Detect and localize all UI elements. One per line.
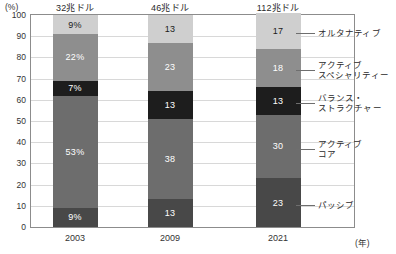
- legend-item-label: アクティブ: [318, 60, 389, 70]
- column-header: 46兆ドル: [130, 1, 210, 14]
- legend-item-label: パッシブ: [318, 200, 354, 210]
- bar-segment-value: 13: [165, 24, 176, 34]
- bar-segment[interactable]: 23: [256, 178, 301, 227]
- legend-item-label: オルタナティブ: [318, 28, 381, 38]
- y-axis-tick-label: 70: [0, 75, 26, 83]
- bar-segment-value: 13: [165, 100, 176, 110]
- bar-segment-value: 17: [273, 26, 284, 36]
- y-axis-tick-label: 20: [0, 181, 26, 189]
- bar-segment[interactable]: 17: [256, 13, 301, 49]
- stacked-bar[interactable]: 2330131817: [256, 15, 301, 227]
- legend-item-label: バランス・: [318, 93, 382, 103]
- bar-segment[interactable]: 13: [256, 87, 301, 115]
- bar-segment[interactable]: 9%: [53, 15, 98, 34]
- bar-segment[interactable]: 38: [148, 119, 193, 200]
- legend-item-label-line2: ストラクチャー: [318, 103, 382, 113]
- bar-segment-value: 30: [273, 141, 284, 151]
- bar-segment-value: 9%: [68, 20, 82, 30]
- y-axis-tick-label: 60: [0, 96, 26, 104]
- legend-item[interactable]: アクティブコア: [318, 139, 363, 159]
- bar-segment[interactable]: 23: [148, 43, 193, 92]
- x-axis-tick-label: 2009: [140, 233, 200, 243]
- legend-leader-line: [296, 103, 316, 104]
- bar-segment-value: 23: [273, 198, 284, 208]
- legend-item-label: アクティブ: [318, 139, 363, 149]
- bar-segment-value: 9%: [68, 212, 82, 222]
- bar-segment-value: 18: [273, 63, 284, 73]
- bar-segment-value: 23: [165, 62, 176, 72]
- legend-item-label-line2: コア: [318, 149, 363, 159]
- legend-item-label-line2: スペシャリティー: [318, 70, 389, 80]
- y-axis-tick-label: 0: [0, 223, 26, 231]
- bar-segment[interactable]: 13: [148, 15, 193, 43]
- column-header: 32兆ドル: [35, 1, 115, 14]
- chart-container: (%) (年) 32兆ドル46兆ドル112兆ドル 100908070605040…: [0, 0, 396, 254]
- legend-item[interactable]: パッシブ: [318, 200, 354, 210]
- stacked-bar[interactable]: 9%53%7%22%9%: [53, 15, 98, 227]
- bar-segment[interactable]: 53%: [53, 96, 98, 208]
- y-axis-tick-label: 10: [0, 202, 26, 210]
- stacked-bar[interactable]: 1338132313: [148, 15, 193, 227]
- legend-item[interactable]: アクティブスペシャリティー: [318, 60, 389, 80]
- bar-segment[interactable]: 9%: [53, 208, 98, 227]
- bar-segment-value: 53%: [66, 147, 85, 157]
- legend-leader-line: [296, 33, 316, 34]
- x-axis-unit-label: (年): [355, 236, 370, 248]
- bar-segment[interactable]: 30: [256, 115, 301, 179]
- bar-segment[interactable]: 22%: [53, 34, 98, 81]
- legend-leader-line: [296, 70, 316, 71]
- legend-leader-line: [296, 149, 316, 150]
- bar-segment-value: 22%: [66, 52, 85, 62]
- legend-leader-line: [296, 205, 316, 206]
- bar-segment-value: 7%: [68, 83, 82, 93]
- x-axis-tick-label: 2021: [248, 233, 308, 243]
- bar-segment[interactable]: 13: [148, 91, 193, 119]
- y-axis-tick-label: 90: [0, 32, 26, 40]
- bar-segment-value: 13: [165, 208, 176, 218]
- bar-segment[interactable]: 18: [256, 49, 301, 87]
- y-axis-tick-label: 50: [0, 117, 26, 125]
- y-axis-tick-label: 100: [0, 11, 26, 19]
- bar-segment[interactable]: 13: [148, 199, 193, 227]
- y-axis-tick-label: 30: [0, 159, 26, 167]
- legend-item[interactable]: バランス・ストラクチャー: [318, 93, 382, 113]
- y-axis-tick-label: 40: [0, 138, 26, 146]
- plot-area: 9%53%7%22%9%13381323132330131817: [30, 14, 355, 228]
- legend-item[interactable]: オルタナティブ: [318, 28, 381, 38]
- y-axis-tick-label: 80: [0, 53, 26, 61]
- bar-segment-value: 38: [165, 154, 176, 164]
- bar-segment[interactable]: 7%: [53, 81, 98, 96]
- x-axis-tick-label: 2003: [45, 233, 105, 243]
- bar-segment-value: 13: [273, 96, 284, 106]
